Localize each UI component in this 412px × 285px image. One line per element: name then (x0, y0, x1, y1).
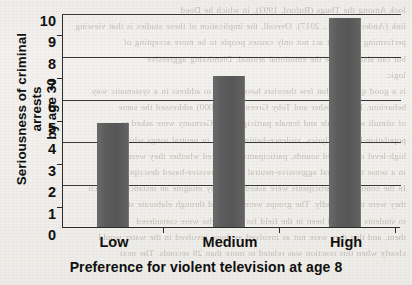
x-tick-1 (163, 227, 164, 233)
y-tick-label-3: 3 (30, 164, 56, 179)
y-tick-label-7: 7 (30, 78, 56, 93)
y-tick-label-2: 2 (30, 185, 56, 200)
y-tick-7 (57, 78, 63, 79)
y-tick-9 (57, 35, 63, 36)
x-tick-3 (395, 227, 396, 233)
y-tick-label-10: 10 (24, 14, 56, 29)
y-tick-label-0: 0 (30, 228, 56, 243)
y-tick-label-6: 6 (30, 100, 56, 115)
x-category-label-low: Low (62, 235, 166, 250)
y-tick-3 (57, 164, 63, 165)
x-axis-title: Preference for violent television at age… (0, 259, 412, 275)
y-tick-label-5: 5 (30, 121, 56, 136)
x-category-label-medium: Medium (178, 235, 282, 250)
y-tick-label-1: 1 (30, 207, 56, 222)
x-tick-2 (279, 227, 280, 233)
bar-chart: Seriousness of criminal arrests by age 3… (0, 0, 412, 285)
x-category-label-high: High (294, 235, 398, 250)
y-tick-5 (57, 121, 63, 122)
bar-low (97, 123, 129, 227)
gridline-10 (63, 14, 401, 15)
y-tick-1 (57, 207, 63, 208)
y-tick-label-8: 8 (30, 57, 56, 72)
y-tick-label-4: 4 (30, 142, 56, 157)
bar-high (329, 18, 361, 227)
y-tick-label-9: 9 (30, 35, 56, 50)
plot-area (62, 14, 400, 228)
bar-medium (213, 76, 245, 227)
